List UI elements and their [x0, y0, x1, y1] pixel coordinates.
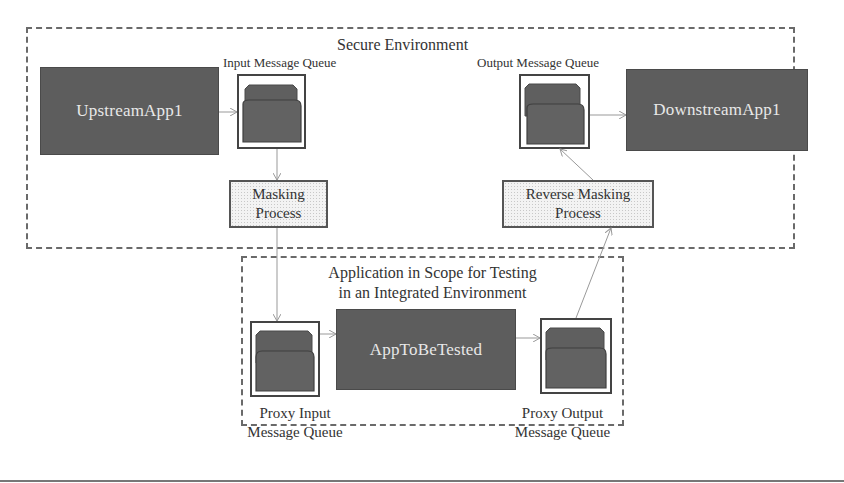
connectors	[0, 0, 844, 483]
bottom-rule	[0, 480, 844, 482]
arrow-reverse-masking-to-output-queue	[560, 149, 593, 180]
arrow-proxy-output-to-reverse-masking	[576, 228, 611, 318]
